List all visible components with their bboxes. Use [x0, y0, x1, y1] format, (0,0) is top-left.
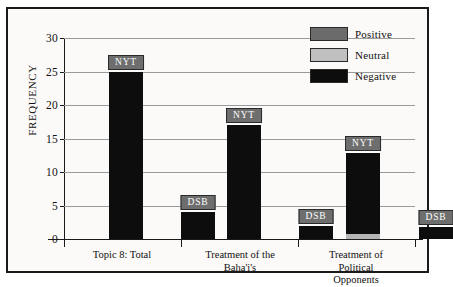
y-tick-label-5: 5 [52, 200, 58, 212]
x-axis-zone: Topic 8: TotalTreatment of the Baha'i'sT… [8, 240, 431, 280]
legend-item-positive: Positive [310, 23, 428, 44]
bar-dsb-group-1 [181, 212, 215, 239]
bar-segment-negative [346, 153, 380, 233]
bar-tag-nyt: NYT [345, 136, 381, 151]
legend-label-positive: Positive [355, 28, 392, 40]
x-category-label-1: Topic 8: Total [93, 249, 151, 262]
bar-segment-negative [299, 226, 333, 239]
y-tick-label-10: 10 [46, 166, 58, 178]
legend-swatch-positive [310, 27, 348, 41]
legend-item-negative: Negative [310, 65, 428, 86]
legend-label-neutral: Neutral [355, 49, 389, 61]
bar-segment-negative [109, 72, 143, 240]
bar-segment-negative [181, 212, 215, 239]
bar-nyt-group-1 [109, 72, 143, 240]
x-category-label-2: Treatment of the Baha'i's [205, 249, 275, 274]
bar-tag-dsb: DSB [299, 209, 334, 224]
bar-dsb-group-3 [419, 227, 453, 239]
legend-swatch-negative [310, 69, 348, 83]
x-tick-mark-2 [298, 240, 299, 247]
x-category-label-3: Treatment of Political Opponents [319, 249, 394, 287]
bar-nyt-group-2 [227, 125, 261, 239]
legend-swatch-neutral [310, 48, 348, 62]
bar-tag-dsb: DSB [181, 195, 216, 210]
bar-dsb-group-2 [299, 226, 333, 239]
y-tick-label-15: 15 [46, 133, 58, 145]
bar-nyt-group-3 [346, 153, 380, 239]
x-tick-mark-0 [64, 240, 65, 247]
y-axis-title: FREQUENCY [26, 30, 38, 170]
legend-item-neutral: Neutral [310, 44, 428, 65]
bar-segment-neutral [346, 234, 380, 239]
bar-tag-dsb: DSB [419, 210, 453, 225]
x-tick-mark-1 [181, 240, 182, 247]
bar-segment-negative [419, 227, 453, 239]
bar-segment-negative [227, 125, 261, 239]
chart-legend: PositiveNeutralNegative [310, 23, 428, 86]
y-tick-label-25: 25 [46, 66, 58, 78]
legend-label-negative: Negative [355, 70, 396, 82]
bar-tag-nyt: NYT [226, 108, 262, 123]
chart-figure: 302520151050 FREQUENCY NYTDSBNYTDSBNYTDS… [6, 7, 429, 273]
x-tick-mark-3 [415, 240, 416, 247]
bar-tag-nyt: NYT [108, 55, 144, 70]
y-tick-label-20: 20 [46, 99, 58, 111]
y-tick-label-30: 30 [46, 32, 58, 44]
